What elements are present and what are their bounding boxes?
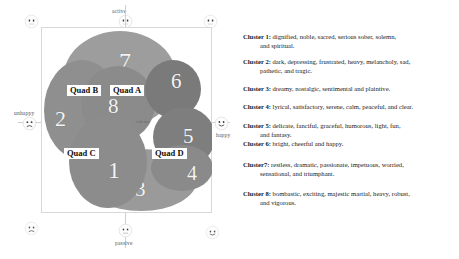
legend-line2: pathetic, and tragic. (243, 67, 449, 76)
quadrant-label-quad-c[interactable]: Quad C (64, 148, 99, 159)
legend-item-cluster-6: Cluster 6: bright, cheerful and happy. (243, 140, 449, 149)
legend-title: Cluster 6: (243, 140, 271, 147)
legend-title: Cluster 4: (243, 103, 271, 110)
sad-face-icon (22, 116, 37, 131)
legend-item-cluster-4: Cluster 4: lyrical, satisfactory, serene… (243, 103, 449, 112)
legend-line2: and vigorous. (243, 199, 449, 208)
legend-line1: dark, depressing, frustrated, heavy, mel… (271, 58, 410, 65)
bubble-label: 5 (183, 126, 194, 147)
legend-title: Cluster7: (243, 161, 269, 168)
cluster-legend: Cluster 1: dignified, noble, sacred, ser… (243, 30, 453, 245)
legend-line1: bright, cheerful and happy. (271, 140, 343, 147)
bubble-label: 4 (187, 163, 197, 183)
bubble-label: 6 (171, 71, 182, 92)
legend-item-cluster-8: Cluster 8: bombastic, exciting, majestic… (243, 190, 449, 207)
legend-title: Cluster 1: (243, 33, 271, 40)
cluster-bubble-figure: active 7 (0, 0, 238, 259)
axis-label-happy: happy (216, 132, 230, 138)
legend-line1: delicate, fanciful, graceful, humorous, … (271, 122, 401, 129)
legend-line2: and spiritual. (243, 42, 449, 51)
neutral-face-icon (118, 223, 133, 238)
legend-line2: sensational, and triumphant. (243, 170, 449, 179)
legend-line1: dignified, noble, sacred, serious sober,… (271, 33, 396, 40)
legend-title: Cluster 8: (243, 190, 271, 197)
legend-line1: lyrical, satisfactory, serene, calm, pea… (271, 103, 413, 110)
legend-title: Cluster 2: (243, 58, 271, 65)
quadrant-label-quad-a[interactable]: Quad A (110, 85, 144, 96)
bubble-label: 1 (108, 158, 120, 182)
sad-face-icon (24, 221, 39, 236)
cluster-bubble-1[interactable]: 1 (69, 116, 147, 208)
legend-line1: bombastic, exciting, majestic martial, h… (271, 190, 410, 197)
legend-item-cluster-7: Cluster7: restless, dramatic, passionate… (243, 161, 449, 178)
legend-item-cluster-3: Cluster 3: dreamy, nostalgic, sentimenta… (243, 85, 449, 94)
legend-line1: dreamy, nostalgic, sentimental and plain… (271, 85, 390, 92)
legend-line1: restless, dramatic, passionate, impetuou… (269, 161, 403, 168)
quadrant-label-quad-d[interactable]: Quad D (152, 148, 187, 159)
bubble-label: 2 (55, 108, 66, 130)
axis-label-valence: valence (136, 119, 150, 124)
screenshot-root: active 7 (0, 0, 459, 259)
happy-face-icon (205, 225, 220, 240)
bubble-label: 8 (108, 96, 119, 117)
bubble-stage: 7 2 8 6 5 3 4 (41, 27, 212, 213)
legend-item-cluster-1: Cluster 1: dignified, noble, sacred, ser… (243, 33, 449, 50)
quadrant-label-quad-b[interactable]: Quad B (67, 85, 101, 96)
legend-title: Cluster 3: (243, 85, 271, 92)
legend-line2: and fantasy. (243, 131, 449, 140)
legend-item-cluster-5: Cluster 5: delicate, fanciful, graceful,… (243, 122, 449, 139)
axis-label-passive: passive (115, 240, 133, 246)
happy-face-icon (214, 116, 229, 131)
legend-item-cluster-2: Cluster 2: dark, depressing, frustrated,… (243, 58, 449, 75)
legend-title: Cluster 5: (243, 122, 271, 129)
neutral-face-icon (24, 14, 39, 29)
